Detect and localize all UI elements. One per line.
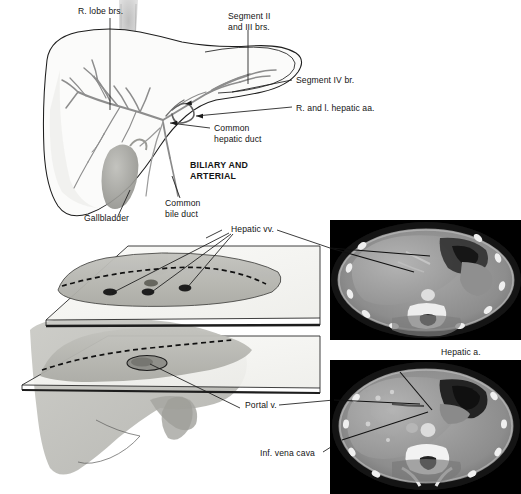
liver-anatomy-figure [0,0,521,494]
label-common-bile-duct-line1: Common [165,198,200,209]
label-common-bile-duct-line2: bile duct [165,209,198,220]
label-portal-v: Portal v. [245,400,277,411]
label-gallbladder: Gallbladder [84,213,129,224]
axial-ct-lower-slice [330,360,521,494]
axial-ct-upper-slice [330,220,521,340]
label-common-hepatic-duct-line1: Common [214,123,249,134]
label-hepatic-vv: Hepatic vv. [231,224,274,235]
label-inf-vena-cava: Inf. vena cava [260,448,315,459]
label-r-lobe-brs: R. lobe brs. [78,6,123,17]
label-common-hepatic-duct-line2: hepatic duct [214,134,262,145]
label-segment-iv-br: Segment IV br. [296,75,354,86]
label-biliary-line1: BILIARY AND [190,160,248,171]
label-segment-ii-iii-line1: Segment II [228,11,271,22]
label-biliary-line2: ARTERIAL [190,171,236,182]
label-hepatic-a: Hepatic a. [441,347,481,358]
label-segment-ii-iii-line2: and III brs. [228,22,270,33]
label-hepatic-aa: R. and l. hepatic aa. [296,103,375,114]
